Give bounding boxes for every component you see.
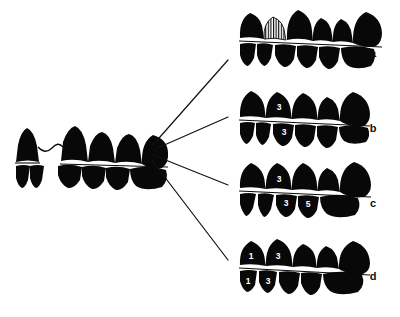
- tooth-upper-1: [61, 126, 88, 162]
- tooth-number-lower-molar: 5: [306, 199, 311, 209]
- tooth-lower-0: [240, 193, 256, 216]
- tooth-lower-0: [240, 122, 255, 144]
- source-lower-row: [16, 165, 167, 190]
- tooth-lower-0: [240, 43, 256, 66]
- panel-c: 3 3 5 c: [239, 162, 376, 218]
- panel-a: a: [239, 10, 382, 69]
- tooth-number-upper-canine: 3: [276, 251, 281, 261]
- diastema-connector: [38, 144, 63, 151]
- tooth-upper-4: [340, 162, 371, 197]
- tooth-lower-3: [295, 124, 316, 147]
- tooth-number-lower-canine: 3: [266, 276, 271, 286]
- tooth-upper-3: [317, 246, 339, 269]
- tooth-number-lower-premolar: 3: [284, 198, 289, 208]
- tooth-upper-0: [240, 163, 266, 189]
- tooth-lower-3: [297, 45, 318, 68]
- panel-d-lower-row: [240, 270, 363, 295]
- panel-b-lower-row: [240, 122, 369, 148]
- panel-label-b: b: [370, 122, 377, 134]
- tooth-upper-2: [287, 10, 313, 41]
- tooth-upper-0: [240, 91, 266, 118]
- tooth-lower-4: [317, 125, 338, 148]
- tooth-lower-4: [319, 46, 340, 69]
- tooth-lower-1: [256, 122, 271, 145]
- tooth-upper-2: [88, 132, 115, 163]
- tooth-lower-1: [30, 165, 44, 188]
- panel-b: 3 3 b: [239, 91, 377, 148]
- tooth-upper-2: [292, 163, 318, 191]
- figure-canvas: a 3 3 b: [0, 0, 400, 317]
- tooth-number-lower: 3: [282, 127, 287, 137]
- tooth-upper-3: [115, 134, 142, 164]
- tooth-lower-2: [275, 44, 296, 67]
- panel-label-a: a: [370, 47, 377, 59]
- tooth-upper-0: [16, 128, 39, 162]
- panel-c-lower-row: [240, 193, 359, 218]
- tooth-upper-4: [340, 92, 370, 126]
- tooth-upper-3: [318, 168, 340, 192]
- tooth-lower-4: [320, 195, 359, 218]
- tooth-upper-2: [292, 93, 318, 120]
- panel-a-lower-row: [240, 43, 375, 69]
- tooth-number-upper: 3: [277, 102, 282, 112]
- tooth-lower-5: [339, 125, 369, 144]
- dentition-variation-figure: a 3 3 b: [0, 0, 400, 317]
- panel-label-d: d: [370, 270, 377, 282]
- tooth-number-lower-incisor: 1: [246, 276, 251, 286]
- tooth-lower-5: [130, 167, 167, 190]
- tooth-lower-4: [323, 272, 363, 295]
- tooth-upper-2: [293, 244, 317, 268]
- tooth-lower-2: [58, 165, 82, 188]
- branch-to-b: [153, 117, 228, 150]
- tooth-upper-1-hatched: [264, 17, 286, 40]
- source-dentition: [15, 126, 168, 190]
- panel-a-upper-row: [240, 10, 382, 47]
- tooth-upper-0: [240, 13, 264, 39]
- tooth-number-upper: 3: [277, 174, 282, 184]
- panel-label-c: c: [370, 197, 376, 209]
- tooth-lower-0: [16, 165, 30, 188]
- tooth-lower-1: [257, 43, 273, 66]
- tooth-upper-4: [339, 241, 370, 274]
- tooth-upper-3: [318, 97, 340, 121]
- tooth-lower-4: [106, 167, 130, 190]
- tooth-upper-5: [353, 12, 382, 47]
- tooth-upper-3: [313, 18, 333, 42]
- tooth-lower-1: [258, 193, 274, 217]
- tooth-lower-2: [279, 271, 300, 294]
- panel-d: 1 3 1 3 d: [239, 239, 376, 295]
- tooth-lower-3: [82, 166, 106, 189]
- tooth-lower-3: [301, 272, 322, 295]
- branch-to-d: [151, 159, 228, 260]
- tooth-upper-4: [333, 19, 353, 43]
- tooth-number-upper-incisor: 1: [249, 251, 254, 261]
